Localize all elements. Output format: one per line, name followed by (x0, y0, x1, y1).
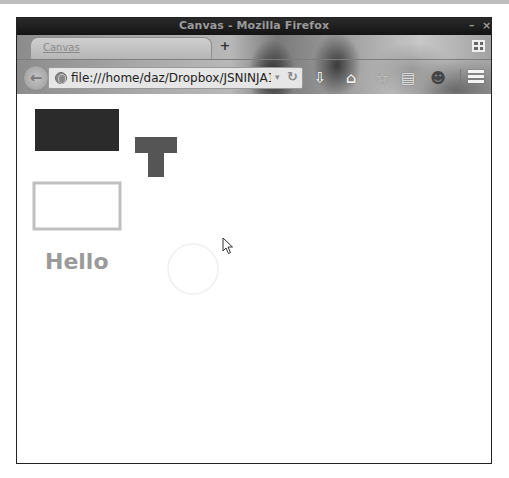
tabstrip-divider (17, 59, 491, 60)
t-shape-stem (148, 153, 164, 177)
firefox-window: Canvas - Mozilla Firefox – × Canvas + ← … (16, 17, 492, 464)
back-arrow-icon: ← (30, 69, 43, 87)
home-icon[interactable]: ⌂ (341, 68, 361, 88)
tab-groups-icon[interactable] (472, 40, 485, 52)
faint-circle (168, 244, 218, 294)
download-icon[interactable]: ⇩ (310, 68, 330, 88)
screen-top-strip (0, 0, 509, 4)
back-button[interactable]: ← (23, 65, 49, 91)
tab-label: Canvas (43, 42, 80, 53)
stroked-rectangle (34, 183, 120, 229)
browser-toolbar: Canvas + ← file:///home/daz/Dropbox/JSNI… (17, 35, 491, 94)
new-tab-button[interactable]: + (218, 39, 232, 53)
filled-rectangle (35, 109, 119, 151)
close-button[interactable]: × (482, 19, 491, 32)
persona-icon[interactable]: ☻ (428, 68, 448, 88)
hello-text: Hello (45, 249, 109, 274)
t-shape-bar (135, 137, 177, 153)
title-bar[interactable]: Canvas - Mozilla Firefox – × (17, 18, 491, 35)
reload-icon[interactable]: ↻ (287, 69, 298, 84)
drawing-canvas[interactable]: Hello (17, 94, 492, 464)
window-title: Canvas - Mozilla Firefox (17, 19, 491, 32)
url-input[interactable]: file:///home/daz/Dropbox/JSNINJA1/5 Co (71, 71, 271, 85)
reading-list-icon[interactable]: ▤ (398, 68, 418, 88)
minimize-button[interactable]: – (469, 19, 475, 32)
hamburger-menu-icon[interactable] (468, 70, 484, 84)
bookmark-star-icon[interactable]: ☆ (372, 68, 392, 88)
toolbar-separator (460, 69, 461, 89)
url-bar[interactable]: file:///home/daz/Dropbox/JSNINJA1/5 Co ▾… (48, 67, 303, 89)
mouse-cursor-icon (222, 237, 234, 255)
page-content: Hello (17, 94, 491, 464)
history-dropdown-icon[interactable]: ▾ (275, 72, 280, 82)
tab-canvas[interactable]: Canvas (30, 37, 212, 59)
globe-icon (55, 72, 67, 84)
